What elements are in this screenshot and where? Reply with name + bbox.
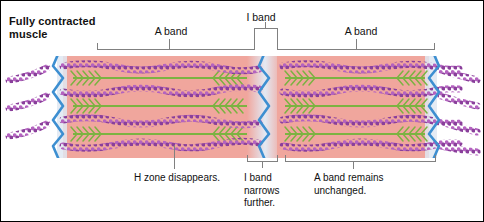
figure-title: Fully contracted muscle [9,15,96,40]
a-band-lower-bracket-rule [285,161,436,162]
h-zone-caption-line1: H zone disappears. [117,172,237,185]
i-band-lower-bracket-stem [262,161,263,168]
i-band-bracket-stem [265,22,266,29]
a-band-right-bracket-rule [277,49,435,50]
a-band-lower-bracket-tick-end [435,155,436,162]
figure-title-line1: Fully contracted [9,15,96,28]
a-band-caption-line2: unchanged. [314,185,424,198]
i-band-caption-line3: further. [244,197,304,210]
a-band-left-bracket-stem [169,39,170,49]
i-band-caption-line1: I band [244,172,304,185]
i-band-center-label: I band [231,11,291,23]
h-zone-leader-line [174,145,175,169]
i-band-lower-bracket-tick-start [247,155,248,162]
z-line-left [53,56,63,158]
i-band-bracket-right-arm [277,28,278,50]
a-band-right-label: A band [321,25,401,37]
a-band-caption-line1: A band remains [314,172,424,185]
filament-layer [1,56,484,158]
sarcomere-graphic [1,56,484,158]
h-zone-caption: H zone disappears. [117,172,237,185]
i-band-bracket-left-arm [254,28,255,50]
a-band-right-bracket-tick-end [434,43,435,50]
i-band-lower-bracket-tick-end [277,155,278,162]
figure-panel: Fully contracted muscle A band I band A … [0,0,484,222]
a-band-left-bracket-tick-start [97,43,98,50]
a-band-lower-bracket-tick-start [285,155,286,162]
figure-title-line2: muscle [9,28,96,41]
a-band-left-label: A band [131,25,211,37]
a-band-lower-bracket-stem [353,161,354,169]
a-band-left-bracket-rule [97,49,255,50]
a-band-caption: A band remains unchanged. [314,172,424,197]
a-band-right-bracket-stem [356,39,357,49]
i-band-caption: I band narrows further. [244,172,304,210]
i-band-caption-line2: narrows [244,185,304,198]
